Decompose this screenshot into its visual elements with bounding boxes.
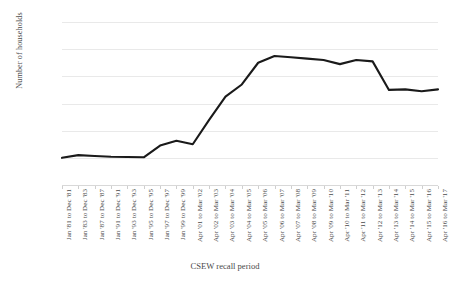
y-axis-title: Number of households	[15, 0, 24, 126]
x-axis-tick-label: Apr '07 to Mar '08	[294, 189, 302, 242]
data-line	[62, 22, 438, 185]
x-axis-tick-label: Apr '01 to Mar '02	[196, 189, 204, 242]
x-axis-tick-label: Jan '91 to Dec '91	[114, 189, 122, 240]
x-axis-tick-label: Apr '12 to Mar '13	[376, 189, 384, 242]
x-axis-tick-label: Jan '81 to Dec '81	[65, 189, 73, 240]
x-axis-tick-label: Jan '83 to Dec '83	[81, 189, 89, 240]
x-axis-tick-label: Apr '08 to Mar '09	[310, 189, 318, 242]
x-axis-tick-label: Apr '16 to Mar '17	[441, 189, 449, 242]
x-axis-tick-label: Apr '15 to Mar '16	[425, 189, 433, 242]
x-axis-tick-label: Apr '14 to Mar '15	[408, 189, 416, 242]
x-axis-tick-label: Jan '87 to Dec '87	[98, 189, 106, 240]
x-axis-tick-label: Jan '95 to Dec '95	[147, 189, 155, 240]
x-axis-labels: Jan '81 to Dec '81Jan '83 to Dec '83Jan …	[62, 189, 438, 255]
plot-area: 010,00020,00030,00040,00050,00060,000	[62, 22, 438, 185]
x-axis-tick-label: Apr '10 to Mar '11	[343, 189, 351, 242]
x-axis-tick-label: Jan '99 to Dec '99	[179, 189, 187, 240]
x-axis-tick-label: Jan '93 to Dec '93	[130, 189, 138, 240]
series-polyline	[62, 56, 438, 158]
x-axis-tick-label: Jan '97 to Dec '97	[163, 189, 171, 240]
line-chart: Number of households 010,00020,00030,000…	[0, 0, 450, 291]
x-axis-title: CSEW recall period	[0, 261, 450, 271]
x-axis-tick-label: Apr '02 to Mar '03	[212, 189, 220, 242]
x-axis-tick-label: Apr '03 to Mar '04	[228, 189, 236, 242]
x-axis-tick-label: Apr '13 to Mar '14	[392, 189, 400, 242]
x-axis-tick-label: Apr '05 to Mar '06	[261, 189, 269, 242]
x-axis-tick-label: Apr '06 to Mar '07	[278, 189, 286, 242]
x-axis-tick-label: Apr '09 to Mar '10	[327, 189, 335, 242]
x-axis-tick-label: Apr '11 to Mar '12	[359, 189, 367, 242]
x-axis-tick-label: Apr '04 to Mar '05	[245, 189, 253, 242]
x-axis-tick	[438, 186, 439, 189]
